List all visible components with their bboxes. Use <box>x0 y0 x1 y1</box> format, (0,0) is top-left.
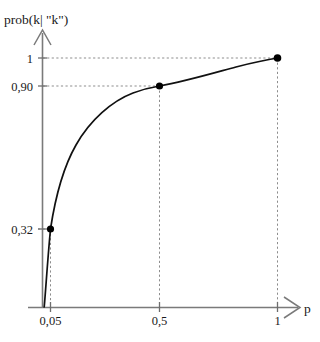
data-point-05-090 <box>156 82 163 89</box>
y-tick-label-090: 0,90 <box>11 80 33 94</box>
chart-container: 1 0,90 0,32 0,05 0,5 1 prob(k| "k") p <box>0 0 320 342</box>
x-tick-label-05: 0,5 <box>152 314 168 328</box>
y-tick-label-032: 0,32 <box>11 223 33 237</box>
probability-curve-chart: 1 0,90 0,32 0,05 0,5 1 prob(k| "k") p <box>0 0 320 342</box>
y-tick-label-1: 1 <box>27 52 33 66</box>
data-point-005-032 <box>47 225 54 232</box>
x-axis-title: p <box>304 301 311 316</box>
probability-curve-path <box>44 58 277 307</box>
y-axis-title: prob(k| "k") <box>4 12 68 27</box>
data-point-1-1 <box>274 54 282 62</box>
x-tick-label-1: 1 <box>274 314 280 328</box>
x-tick-label-005: 0,05 <box>40 314 62 328</box>
